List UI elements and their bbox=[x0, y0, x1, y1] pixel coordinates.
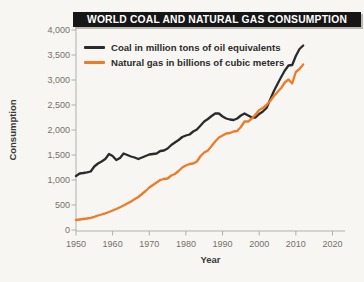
chart-legend: Coal in million tons of oil equivalents … bbox=[84, 40, 284, 70]
x-tick-label: 1950 bbox=[66, 239, 86, 249]
y-tick-label: 500 bbox=[55, 200, 70, 210]
gas-line bbox=[76, 65, 303, 221]
y-tick-label: 1,000 bbox=[47, 175, 70, 185]
y-tick-label: 1,500 bbox=[47, 150, 70, 160]
legend-item-gas: Natural gas in billions of cubic meters bbox=[84, 55, 284, 70]
x-tick-label: 2000 bbox=[249, 239, 269, 249]
legend-item-coal: Coal in million tons of oil equivalents bbox=[84, 40, 284, 55]
gas-line-swatch bbox=[84, 61, 105, 64]
x-tick-label: 1980 bbox=[176, 239, 196, 249]
legend-label-gas: Natural gas in billions of cubic meters bbox=[111, 57, 284, 68]
y-tick-label: 2,000 bbox=[47, 125, 70, 135]
coal-line-swatch bbox=[84, 46, 105, 49]
y-tick-label: 3,500 bbox=[47, 50, 70, 60]
y-axis-title: Consumption bbox=[7, 80, 19, 180]
x-axis-title: Year bbox=[76, 254, 345, 265]
x-tick-label: 1960 bbox=[103, 239, 123, 249]
legend-label-coal: Coal in million tons of oil equivalents bbox=[111, 42, 281, 53]
x-tick-label: 1970 bbox=[139, 239, 159, 249]
chart-title: WORLD COAL AND NATURAL GAS CONSUMPTION bbox=[73, 12, 361, 27]
chart-panel: 05001,0001,5002,0002,5003,0003,5004,0001… bbox=[0, 0, 364, 282]
x-tick-label: 2010 bbox=[286, 239, 306, 249]
y-tick-label: 2,500 bbox=[47, 100, 70, 110]
y-tick-label: 3,000 bbox=[47, 75, 70, 85]
x-tick-label: 2020 bbox=[322, 239, 342, 249]
x-tick-label: 1990 bbox=[213, 239, 233, 249]
y-tick-label: 0 bbox=[65, 225, 70, 235]
y-tick-label: 4,000 bbox=[47, 25, 70, 35]
